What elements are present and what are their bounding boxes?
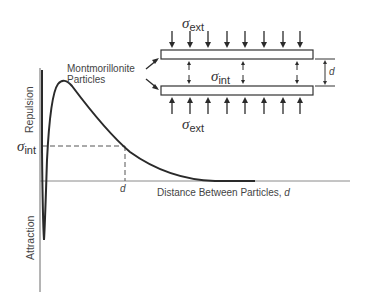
- label-pointer-arrows: [146, 58, 159, 90]
- bottom-plate: [161, 86, 313, 95]
- curve-label-line1: Montmorillonite: [67, 63, 135, 74]
- sigma-int-guides: [42, 146, 125, 181]
- y-axis-repulsion-label: Repulsion: [23, 86, 35, 133]
- y-axis-attraction-label: Attraction: [24, 216, 36, 260]
- sigma-ext-top-label: σext: [182, 16, 204, 33]
- x-axis-tick-d: d: [120, 184, 126, 194]
- internal-arrows: [187, 61, 299, 84]
- top-plate: [161, 50, 313, 59]
- inset-plates: [161, 50, 313, 95]
- curve-label: Montmorillonite Particles: [67, 63, 135, 85]
- external-arrows-bottom: [169, 97, 303, 114]
- sigma-int-inset-label: σint: [211, 69, 230, 86]
- curve-label-line2: Particles: [67, 74, 135, 85]
- sigma-ext-bottom-label: σext: [182, 117, 204, 134]
- diagram-canvas: [0, 0, 365, 304]
- gap-d-label: d: [329, 67, 335, 77]
- external-arrows-top: [169, 31, 303, 48]
- sigma-int-axis-label: σint: [17, 139, 36, 156]
- x-axis-label: Distance Between Particles, d: [157, 188, 290, 198]
